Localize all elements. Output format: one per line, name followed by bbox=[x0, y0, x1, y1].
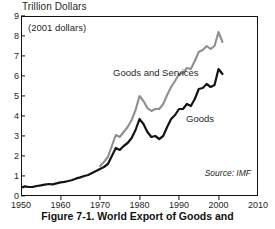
x-tick-mark bbox=[99, 196, 100, 200]
line-goods-and-services bbox=[100, 32, 222, 166]
x-tick-label: 1950 bbox=[11, 200, 31, 210]
figure-caption: Figure 7-1. World Export of Goods and bbox=[0, 210, 275, 222]
x-tick-label: 1990 bbox=[169, 200, 189, 210]
x-tick-label: 1980 bbox=[129, 200, 149, 210]
x-tick-label: 1960 bbox=[50, 200, 70, 210]
y-tick-label: 1 bbox=[14, 171, 19, 181]
y-tick-label: 5 bbox=[14, 91, 19, 101]
y-tick-label: 8 bbox=[14, 31, 19, 41]
x-tick-mark bbox=[60, 196, 61, 200]
y-tick-label: 9 bbox=[14, 11, 19, 21]
y-axis-tick-labels: 0123456789 bbox=[0, 16, 19, 196]
x-tick-label: 2000 bbox=[208, 200, 228, 210]
source-note: Source: IMF bbox=[205, 168, 251, 178]
y-tick-label: 3 bbox=[14, 131, 19, 141]
x-tick-mark bbox=[218, 196, 219, 200]
x-tick-label: 1970 bbox=[90, 200, 110, 210]
y-tick-label: 6 bbox=[14, 71, 19, 81]
series-label-goods-and-services: Goods and Services bbox=[113, 67, 199, 78]
y-axis-title: Trillion Dollars bbox=[22, 1, 87, 12]
x-tick-label: 2010 bbox=[248, 200, 268, 210]
line-goods bbox=[21, 69, 222, 188]
x-tick-mark bbox=[139, 196, 140, 200]
y-tick-label: 2 bbox=[14, 151, 19, 161]
figure-world-export-chart: Trillion Dollars (2001 dollars) 01234567… bbox=[0, 0, 275, 229]
y-tick-label: 7 bbox=[14, 51, 19, 61]
series-label-goods: Goods bbox=[186, 113, 214, 124]
x-tick-mark bbox=[178, 196, 179, 200]
y-tick-label: 4 bbox=[14, 111, 19, 121]
